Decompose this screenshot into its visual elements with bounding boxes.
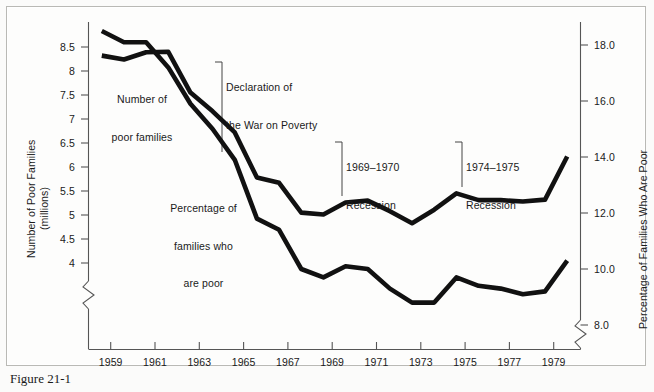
xtick-label-1977: 1977 xyxy=(484,356,534,368)
right-axis-ticks xyxy=(581,45,589,325)
annotation-recession-1974: 1974–1975 Recession xyxy=(466,136,519,236)
left-axis-title-line1: Number of Poor Families xyxy=(25,140,37,258)
y2tick-label-12: 12.0 xyxy=(594,207,615,219)
ytick-label-8-5: 8.5 xyxy=(40,41,75,53)
right-axis-break-icon xyxy=(575,320,586,348)
ytick-label-6: 6 xyxy=(40,161,75,173)
x-axis-ticks xyxy=(111,342,554,350)
leader-recession-1969 xyxy=(335,142,342,196)
annotation-war-line2: the War on Poverty xyxy=(226,119,317,132)
y2tick-label-16: 16.0 xyxy=(594,95,615,107)
leader-recession-1974 xyxy=(455,142,462,187)
right-axis-title: Percentage of Families Who Are Poor xyxy=(637,150,649,329)
left-axis-title-line2: (millions) xyxy=(38,187,50,230)
annotation-war-on-poverty: Declaration of the War on Poverty xyxy=(226,56,317,156)
annotation-rec69-line2: Recession xyxy=(346,199,399,212)
xtick-label-1959: 1959 xyxy=(86,356,136,368)
ytick-label-6-5: 6.5 xyxy=(40,137,75,149)
chart-canvas xyxy=(0,0,654,392)
ytick-label-4-5: 4.5 xyxy=(40,233,75,245)
annotation-rec74-line1: 1974–1975 xyxy=(466,161,519,174)
y2tick-label-8: 8.0 xyxy=(594,319,609,331)
xtick-label-1963: 1963 xyxy=(174,356,224,368)
annotation-war-line1: Declaration of xyxy=(226,81,317,94)
series-label-percentage-line2: families who xyxy=(156,240,251,253)
ytick-label-7-5: 7.5 xyxy=(40,89,75,101)
xtick-label-1973: 1973 xyxy=(396,356,446,368)
y2tick-label-18: 18.0 xyxy=(594,39,615,51)
left-axis-ticks xyxy=(81,47,89,263)
figure-container: 8.5 8 7.5 7 6.5 6 5.5 5 4.5 4 18.0 16.0 … xyxy=(0,0,654,392)
xtick-label-1975: 1975 xyxy=(440,356,490,368)
series-label-percentage-line1: Percentage of xyxy=(156,202,251,215)
y2tick-label-14: 14.0 xyxy=(594,151,615,163)
series-label-percentage-of-families-poor: Percentage of families who are poor xyxy=(156,177,251,315)
ytick-label-4: 4 xyxy=(40,257,75,269)
xtick-label-1969: 1969 xyxy=(307,356,357,368)
xtick-label-1971: 1971 xyxy=(352,356,402,368)
ytick-label-7: 7 xyxy=(40,113,75,125)
annotation-rec69-line1: 1969–1970 xyxy=(346,161,399,174)
ytick-label-8: 8 xyxy=(40,65,75,77)
annotation-recession-1969: 1969–1970 Recession xyxy=(346,136,399,236)
annotation-rec74-line2: Recession xyxy=(466,199,519,212)
series-label-number-line1: Number of xyxy=(96,93,188,106)
figure-caption: Figure 21-1 xyxy=(10,371,71,387)
y2tick-label-10: 10.0 xyxy=(594,263,615,275)
xtick-label-1979: 1979 xyxy=(529,356,579,368)
series-label-number-of-poor-families: Number of poor families xyxy=(96,68,188,168)
xtick-label-1961: 1961 xyxy=(130,356,180,368)
xtick-label-1965: 1965 xyxy=(219,356,269,368)
series-label-percentage-line3: are poor xyxy=(156,277,251,290)
left-axis-break-icon xyxy=(83,281,94,309)
series-label-number-line2: poor families xyxy=(96,131,188,144)
xtick-label-1967: 1967 xyxy=(263,356,313,368)
